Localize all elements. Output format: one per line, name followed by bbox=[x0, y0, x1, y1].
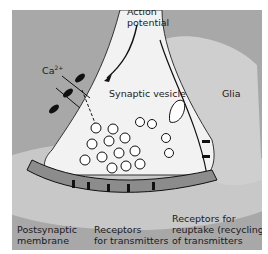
receptors-reuptake-label: Receptors for reuptake (recycling) of tr… bbox=[172, 213, 262, 246]
postsynaptic-membrane-label: Postsynaptic membrane bbox=[17, 224, 77, 246]
glia-label: Glia bbox=[222, 88, 240, 99]
calcium-label: Ca2+ bbox=[42, 62, 63, 76]
synapse-diagram: Action potential Ca2+ Synaptic vesicle G… bbox=[12, 10, 262, 250]
synaptic-vesicle-label: Synaptic vesicle bbox=[109, 88, 186, 99]
receptors-transmitters-label: Receptors for transmitters bbox=[94, 224, 169, 246]
action-potential-label: Action potential bbox=[127, 10, 169, 28]
